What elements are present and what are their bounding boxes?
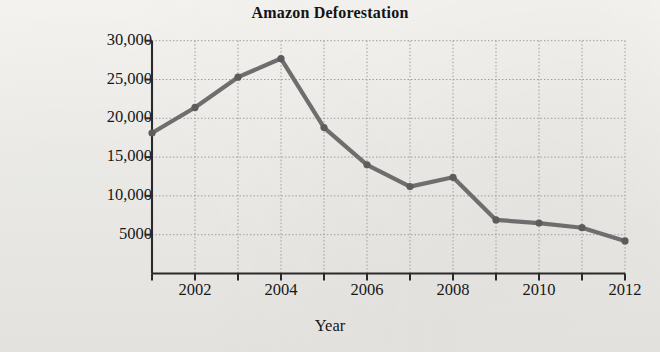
data-point-marker [621, 237, 628, 244]
plot-area [0, 0, 660, 352]
data-markers [148, 55, 628, 245]
tick-marks [145, 41, 625, 281]
data-point-marker [449, 174, 456, 181]
data-point-marker [578, 224, 585, 231]
data-point-marker [406, 183, 413, 190]
data-point-marker [320, 124, 327, 131]
data-line-path [152, 59, 625, 241]
data-point-marker [191, 104, 198, 111]
data-point-marker [148, 129, 155, 136]
grid-lines [152, 41, 625, 274]
chart-figure: Amazon Deforestation Forest Cleared (squ… [0, 0, 660, 352]
data-line [152, 59, 625, 241]
data-point-marker [277, 55, 284, 62]
data-point-marker [234, 74, 241, 81]
data-point-marker [535, 219, 542, 226]
data-point-marker [363, 161, 370, 168]
data-point-marker [492, 216, 499, 223]
